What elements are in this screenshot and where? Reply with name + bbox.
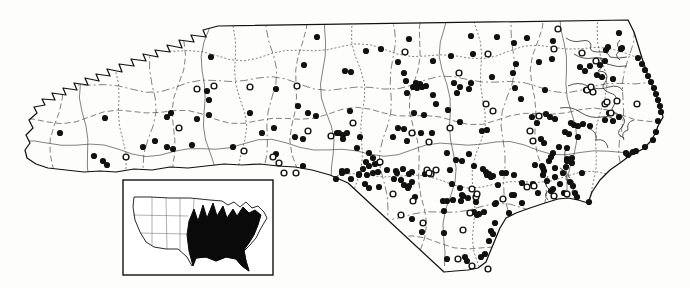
record-dot-filled [513,61,519,67]
record-dot-filled [550,38,556,44]
record-dot-filled [363,48,369,54]
record-dot-filled [535,190,541,196]
record-dot-open [176,125,182,131]
record-dot-filled [616,114,622,120]
record-dot-filled [375,169,381,175]
record-dot-filled [655,97,661,103]
record-dot-open [536,113,542,119]
record-dot-filled [639,61,645,67]
record-dot-open [551,193,557,199]
record-dot-filled [471,163,477,169]
record-dot-filled [495,182,501,188]
record-dot-open [467,210,473,216]
record-dot-filled [546,158,552,164]
record-dot-filled [339,168,345,174]
record-dot-filled [364,172,370,178]
record-dot-filled [445,107,451,113]
record-dot-filled [314,34,320,40]
record-dot-open [409,130,415,136]
record-dot-filled [602,117,608,123]
record-dot-filled [653,129,659,135]
record-dot-open [524,184,530,190]
record-dot-filled [140,144,146,150]
record-dot-filled [575,134,581,140]
record-dot-open [390,191,396,197]
record-dot-filled [657,103,663,109]
record-dot-filled [466,151,472,157]
record-dot-filled [376,184,382,190]
record-dot-filled [333,176,339,182]
record-dot-filled [370,155,376,161]
record-dot-filled [586,199,592,205]
record-dot-open [579,50,585,56]
record-dot-filled [560,170,566,176]
record-dot-filled [313,113,319,119]
record-dot-filled [599,74,605,80]
record-dot-filled [208,54,214,60]
record-dot-filled [450,197,456,203]
record-dot-filled [441,208,447,214]
record-dot-filled [409,169,415,175]
record-dot-filled [390,134,396,140]
record-dot-filled [569,160,575,166]
record-dot-filled [457,119,463,125]
record-dot-filled [618,46,624,52]
record-dot-filled [468,80,474,86]
record-dot-filled [580,121,586,127]
record-dot-open [474,191,480,197]
record-dot-filled [519,200,525,206]
record-dot-filled [492,201,498,207]
record-dot-filled [658,109,664,115]
record-dot-open [420,220,426,226]
record-dot-filled [421,112,427,118]
record-dot-filled [466,86,472,92]
record-dot-filled [342,68,348,74]
record-dot-open [456,70,462,76]
record-dot-filled [152,138,158,144]
record-dot-open [402,49,408,55]
record-dot-filled [587,123,593,129]
record-dot-filled [394,170,400,176]
record-dot-filled [301,62,307,68]
record-dot-filled [642,67,648,73]
record-dot-open [469,263,475,269]
record-dot-open [328,133,334,139]
record-dot-filled [305,110,311,116]
record-dot-filled [300,163,306,169]
record-dot-open [398,212,404,218]
paper-background [0,0,690,288]
record-dot-filled [587,63,593,69]
record-dot-open [614,98,620,104]
record-dot-filled [356,171,362,177]
record-dot-filled [529,114,535,120]
record-dot-filled [630,149,636,155]
record-dot-open [551,46,557,52]
record-dot-filled [579,170,585,176]
record-dot-open [634,101,640,107]
record-dot-filled [204,88,210,94]
record-dot-filled [404,138,410,144]
record-dot-open [500,196,506,202]
record-dot-filled [401,70,407,76]
record-dot-filled [544,178,550,184]
record-dot-filled [602,58,608,64]
record-dot-open [555,26,561,32]
record-dot-open [433,167,439,173]
record-dot-open [305,128,311,134]
record-dot-filled [409,216,415,222]
record-dot-filled [378,46,384,52]
record-dot-open [608,110,614,116]
record-dot-filled [490,231,496,237]
record-dot-filled [566,131,572,137]
record-dot-filled [164,144,170,150]
record-dot-filled [444,256,450,262]
record-dot-filled [465,195,471,201]
record-dot-open [350,120,356,126]
record-dot-filled [259,130,265,136]
record-dot-open [410,198,416,204]
record-dot-filled [194,116,200,122]
record-dot-filled [648,79,654,85]
record-dot-filled [642,144,648,150]
record-dot-filled [506,210,512,216]
record-dot-filled [91,153,97,159]
